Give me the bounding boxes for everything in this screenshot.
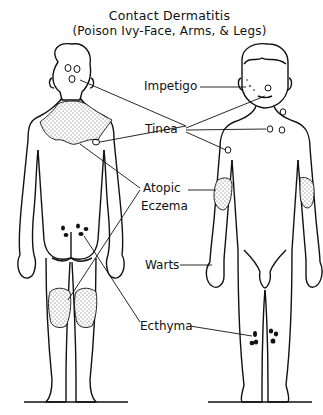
label-tinea: Tinea [145,122,178,136]
front-tinea-spots [225,85,286,153]
front-view-figure [206,44,322,402]
back-view-figure [18,44,128,402]
label-eczema: Eczema [141,199,188,213]
label-warts: Warts [145,258,179,272]
impetigo-spots [246,79,255,91]
label-impetigo: Impetigo [144,79,197,93]
knee-back-patch-left [49,288,71,327]
buttock-ecthyma-spots [61,224,88,238]
neck-back-dermatitis-patch [40,101,112,144]
leg-ecthyma-spots [250,328,279,345]
label-ecthyma: Ecthyma [140,319,193,333]
arm-front-eczema-patch-left [214,178,232,210]
label-atopic: Atopic [143,181,181,195]
arm-front-eczema-patch-right [300,177,314,208]
knee-back-patch-right [75,288,97,327]
